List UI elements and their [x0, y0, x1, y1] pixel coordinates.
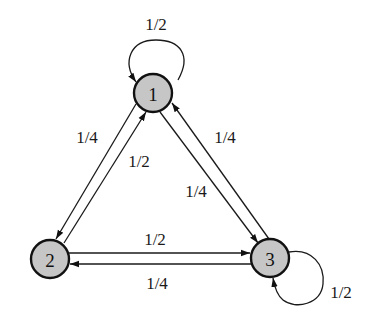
edge-2-to-3: 1/2 [69, 230, 250, 254]
edge-label-2-1: 1/2 [128, 152, 150, 171]
edge-label-3-1: 1/4 [214, 128, 236, 147]
edge-3-to-2: 1/4 [70, 264, 251, 293]
edge-label-1-1: 1/2 [145, 15, 167, 34]
edge-1-to-2: 1/4 [56, 104, 136, 239]
node-3-label: 3 [265, 249, 275, 270]
edge-label-2-3: 1/2 [144, 230, 166, 249]
edge-3-to-1: 1/4 [172, 103, 269, 239]
node-3: 3 [251, 239, 289, 277]
node-1-label: 1 [148, 84, 158, 105]
arrow-1-3 [160, 112, 258, 243]
edge-label-3-3: 1/2 [330, 283, 352, 302]
node-2: 2 [31, 240, 69, 278]
edge-label-1-3: 1/4 [185, 182, 207, 201]
node-2-label: 2 [45, 250, 55, 271]
edge-1-to-3: 1/4 [160, 112, 258, 243]
edge-label-3-2: 1/4 [146, 274, 168, 293]
arrow-1-2 [56, 104, 136, 239]
edge-label-1-2: 1/4 [76, 128, 98, 147]
edge-1-to-1: 1/2 [129, 15, 184, 83]
markov-chain-diagram: 1/2 1/4 1/2 1/4 1/4 1/2 1/4 1/2 1 [0, 0, 378, 328]
arrow-3-1 [172, 103, 269, 239]
node-1: 1 [134, 74, 172, 112]
